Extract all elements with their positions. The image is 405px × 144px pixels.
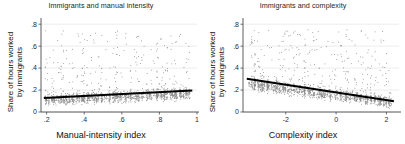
x-tick-label: 2 bbox=[384, 116, 388, 123]
plot-area-right: 0.2.4.6.8-202 bbox=[202, 0, 404, 144]
immigrants-scatter-figure: Immigrants and manual intensity 0.2.4.6.… bbox=[0, 0, 405, 144]
y-tick-label: .2 bbox=[233, 86, 239, 93]
x-tick-label: .2 bbox=[44, 116, 50, 123]
y-tick-label: .6 bbox=[31, 43, 37, 50]
y-tick-label: 0 bbox=[33, 108, 37, 115]
x-tick-label: 1 bbox=[195, 116, 199, 123]
y-tick-label: .8 bbox=[233, 21, 239, 28]
x-axis-label-right: Complexity index bbox=[202, 130, 404, 140]
plot-area-left: 0.2.4.6.8.2.4.6.81 bbox=[0, 0, 202, 144]
y-tick-label: 0 bbox=[235, 108, 239, 115]
panel-complexity: Immigrants and complexity 0.2.4.6.8-202 … bbox=[202, 0, 404, 144]
x-tick-label: .8 bbox=[156, 116, 162, 123]
y-tick-label: .4 bbox=[31, 64, 37, 71]
y-tick-label: .2 bbox=[31, 86, 37, 93]
x-tick-label: -2 bbox=[283, 116, 289, 123]
x-tick-label: .4 bbox=[81, 116, 87, 123]
x-axis-label-left: Manual-intensity index bbox=[0, 130, 202, 140]
x-tick-label: .6 bbox=[119, 116, 125, 123]
y-tick-label: .6 bbox=[233, 43, 239, 50]
x-tick-label: 0 bbox=[334, 116, 338, 123]
y-tick-label: .8 bbox=[31, 21, 37, 28]
y-tick-label: .4 bbox=[233, 64, 239, 71]
panel-manual-intensity: Immigrants and manual intensity 0.2.4.6.… bbox=[0, 0, 202, 144]
